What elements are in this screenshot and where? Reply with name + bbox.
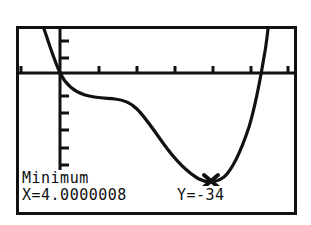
- calculator-screen: Minimum X=4.0000008 Y=-34: [16, 26, 297, 215]
- function-curve: [44, 29, 268, 182]
- calculator-screenshot: Minimum X=4.0000008 Y=-34: [0, 0, 311, 225]
- graph-svg: [19, 29, 294, 212]
- graph-plot-area[interactable]: [19, 29, 294, 212]
